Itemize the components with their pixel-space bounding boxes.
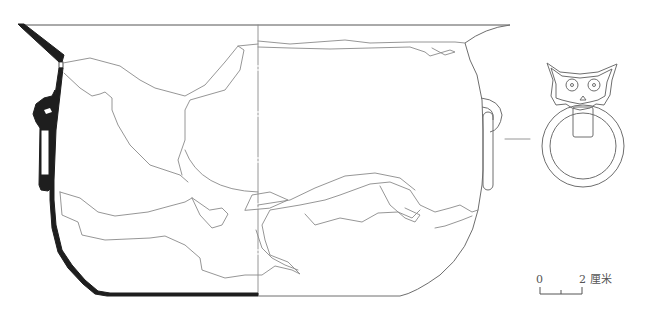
scale-start-label: 0 (536, 273, 543, 286)
handle-side-view (481, 98, 530, 190)
damage-outlines (60, 40, 478, 278)
handle-detail (542, 63, 624, 187)
exterior-profile (258, 25, 510, 296)
basin-drawing: 0 2 厘米 (0, 0, 661, 323)
scale-unit-label: 厘米 (590, 273, 612, 286)
scale-end-label: 2 (579, 273, 586, 286)
scale-bar: 0 2 厘米 (536, 273, 612, 294)
handle-section (33, 90, 55, 191)
